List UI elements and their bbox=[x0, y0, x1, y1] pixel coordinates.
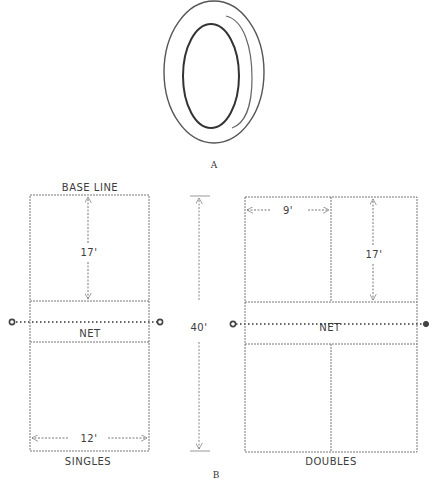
singles-title: SINGLES bbox=[65, 456, 111, 467]
doubles-net-label: NET bbox=[319, 322, 340, 333]
baseline-label: BASE LINE bbox=[62, 182, 118, 193]
singles-net-post-right bbox=[157, 319, 162, 324]
singles-depth-label: 17' bbox=[81, 247, 98, 258]
singles-net-post-left bbox=[9, 319, 14, 324]
doubles-title: DOUBLES bbox=[305, 456, 357, 467]
singles-width-label: 12' bbox=[81, 433, 98, 444]
singles-net-label: NET bbox=[79, 328, 100, 339]
ring-drawing bbox=[164, 1, 264, 143]
figure-a-label: A bbox=[211, 160, 218, 170]
overall-length-label: 40' bbox=[191, 322, 208, 333]
doubles-half-width-label: 9' bbox=[283, 205, 293, 216]
figure-b-label: B bbox=[213, 470, 220, 480]
doubles-net-post-left bbox=[230, 321, 235, 326]
diagram-canvas bbox=[0, 0, 430, 482]
doubles-depth-label: 17' bbox=[366, 249, 383, 260]
doubles-net-post-right bbox=[423, 321, 428, 326]
